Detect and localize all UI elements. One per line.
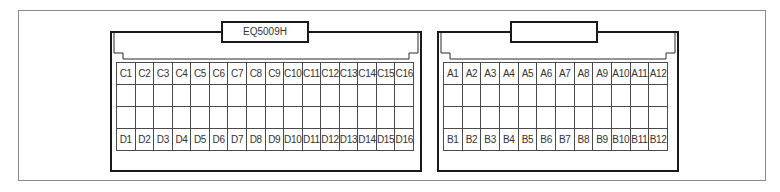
pin-cell-empty (593, 107, 612, 129)
pin-cell: A7 (555, 63, 574, 85)
pin-cell: C14 (358, 63, 377, 85)
pin-cell: A3 (481, 63, 500, 85)
pin-cell: D8 (246, 129, 265, 151)
pin-cell-empty (117, 107, 136, 129)
pin-cell-empty (555, 85, 574, 107)
pin-cell: A11 (630, 63, 649, 85)
pin-cell-empty (172, 107, 191, 129)
pin-cell-empty (209, 107, 228, 129)
pin-cell-empty (246, 107, 265, 129)
pin-cell-empty (593, 85, 612, 107)
pin-cell-empty (135, 107, 154, 129)
pin-cell: D6 (209, 129, 228, 151)
pin-cell-empty (265, 107, 284, 129)
pin-cell: C10 (284, 63, 303, 85)
connector-right-pin-grid: A1A2A3A4A5A6A7A8A9A10A11A12B1B2B3B4B5B6B… (443, 62, 668, 151)
pin-cell: C16 (395, 63, 414, 85)
pin-cell-empty (395, 85, 414, 107)
pin-cell: D1 (117, 129, 136, 151)
pin-cell-empty (462, 107, 481, 129)
pin-cell: C1 (117, 63, 136, 85)
pin-cell-empty (191, 85, 210, 107)
pin-cell-empty (649, 107, 668, 129)
pin-cell-empty (499, 107, 518, 129)
pin-cell: D11 (302, 129, 321, 151)
pin-cell: A1 (444, 63, 463, 85)
pin-cell: C2 (135, 63, 154, 85)
pin-cell: A10 (611, 63, 630, 85)
pin-cell-empty (284, 85, 303, 107)
pin-cell: B7 (555, 129, 574, 151)
pin-cell-empty (154, 107, 173, 129)
pin-row: B1B2B3B4B5B6B7B8B9B10B11B12 (444, 129, 668, 151)
pin-cell: C8 (246, 63, 265, 85)
pin-cell-empty (209, 85, 228, 107)
pin-row: C1C2C3C4C5C6C7C8C9C10C11C12C13C14C15C16 (117, 63, 414, 85)
pin-cell: C4 (172, 63, 191, 85)
pin-cell: A4 (499, 63, 518, 85)
pin-cell: B10 (611, 129, 630, 151)
pin-cell-empty (117, 85, 136, 107)
pin-cell-empty (395, 107, 414, 129)
pin-cell-empty (611, 107, 630, 129)
pin-cell-empty (574, 107, 593, 129)
pin-cell-empty (630, 107, 649, 129)
pin-cell: B2 (462, 129, 481, 151)
pin-cell: D7 (228, 129, 247, 151)
pin-cell: D2 (135, 129, 154, 151)
pin-cell-empty (518, 85, 537, 107)
pin-cell-empty (611, 85, 630, 107)
pin-cell-empty (537, 107, 556, 129)
connector-right-label (510, 21, 598, 43)
pin-cell: A2 (462, 63, 481, 85)
pin-cell: B12 (649, 129, 668, 151)
pin-cell-empty (228, 107, 247, 129)
pin-cell-empty (135, 85, 154, 107)
pin-cell-empty (246, 85, 265, 107)
pin-cell: A9 (593, 63, 612, 85)
pin-cell: D9 (265, 129, 284, 151)
pin-cell: C13 (339, 63, 358, 85)
pin-cell: A8 (574, 63, 593, 85)
pin-cell: D12 (321, 129, 340, 151)
pin-cell-empty (481, 107, 500, 129)
pin-cell: C11 (302, 63, 321, 85)
pin-cell: B1 (444, 129, 463, 151)
pin-cell-empty (339, 107, 358, 129)
pin-cell: D5 (191, 129, 210, 151)
pin-row (117, 85, 414, 107)
pin-cell-empty (321, 107, 340, 129)
pin-row: A1A2A3A4A5A6A7A8A9A10A11A12 (444, 63, 668, 85)
pin-cell: B8 (574, 129, 593, 151)
pin-cell: D10 (284, 129, 303, 151)
pin-cell: B9 (593, 129, 612, 151)
pin-cell-empty (358, 107, 377, 129)
pin-cell: D15 (376, 129, 395, 151)
pin-cell: A6 (537, 63, 556, 85)
pin-cell: B6 (537, 129, 556, 151)
pin-cell: C3 (154, 63, 173, 85)
pin-cell-empty (339, 85, 358, 107)
pin-cell: C9 (265, 63, 284, 85)
pin-cell-empty (154, 85, 173, 107)
pin-cell: A12 (649, 63, 668, 85)
pin-row: D1D2D3D4D5D6D7D8D9D10D11D12D13D14D15D16 (117, 129, 414, 151)
pin-cell-empty (481, 85, 500, 107)
pin-cell-empty (376, 107, 395, 129)
pin-cell-empty (649, 85, 668, 107)
pin-cell-empty (630, 85, 649, 107)
pin-cell: B5 (518, 129, 537, 151)
pin-cell-empty (265, 85, 284, 107)
connector-left-pin-grid: C1C2C3C4C5C6C7C8C9C10C11C12C13C14C15C16D… (116, 62, 414, 151)
pin-cell-empty (284, 107, 303, 129)
pin-cell-empty (462, 85, 481, 107)
pin-cell: C6 (209, 63, 228, 85)
pin-cell-empty (191, 107, 210, 129)
pin-cell: D4 (172, 129, 191, 151)
pin-cell: C5 (191, 63, 210, 85)
pin-cell-empty (321, 85, 340, 107)
pin-cell-empty (555, 107, 574, 129)
pin-cell: D14 (358, 129, 377, 151)
pin-row (117, 107, 414, 129)
pin-row (444, 107, 668, 129)
